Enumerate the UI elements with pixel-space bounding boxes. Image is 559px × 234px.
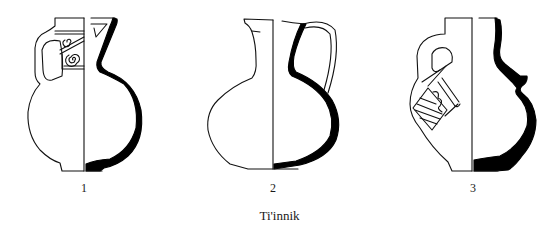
pottery-drawings [0,0,559,234]
jug-2-drawing [208,19,339,169]
pottery-figure: 1 2 3 Ti'innik [0,0,559,234]
jug-1-drawing [28,18,142,171]
figure-caption: Ti'innik [0,208,559,224]
item-number-1: 1 [74,181,94,195]
item-number-3: 3 [463,181,483,195]
jug-3-drawing [410,18,536,171]
item-number-2: 2 [263,181,283,195]
